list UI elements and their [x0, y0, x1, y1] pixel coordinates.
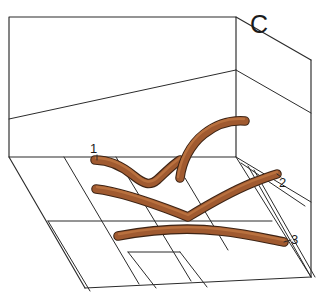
block-diagram-figure: C 1 2 3	[0, 0, 328, 308]
block-diagram-svg	[0, 0, 328, 308]
panel-label: C	[250, 12, 268, 37]
bed-label-3: 3	[291, 233, 298, 246]
block-faces	[9, 17, 311, 288]
bed-label-1: 1	[90, 142, 97, 155]
bed-label-2: 2	[279, 176, 286, 189]
